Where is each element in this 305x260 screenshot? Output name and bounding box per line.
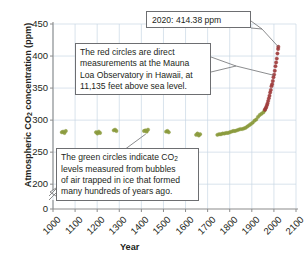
annotation-2020-value: 2020: 414.38 ppm — [146, 11, 251, 28]
plot-area — [0, 0, 305, 260]
annotation-green-subscript: 2 — [174, 155, 178, 162]
annotation-green-line3: of air trapped in ice that formed — [61, 175, 180, 185]
annotation-red-line1: The red circles are direct — [80, 47, 175, 57]
annotation-red-line4: 11,135 feet above sea level. — [80, 81, 187, 91]
annotation-green-line4: many hundreds of years ago. — [61, 186, 172, 196]
series-1 — [263, 45, 280, 111]
annotation-green-line1: The green circles indicate CO — [61, 152, 174, 162]
annotation-green-circles: The green circles indicate CO2 levels me… — [56, 148, 199, 201]
annotation-red-line2: measurements at the Mauna — [80, 58, 189, 68]
co2-concentration-chart: Atmospheric CO2 concentration (ppm) Year… — [0, 0, 305, 260]
annotation-2020-line1: 2020: 414.38 ppm — [152, 15, 221, 25]
annotation-red-circles: The red circles are direct measurements … — [75, 43, 211, 95]
annotation-green-line2: levels measured from bubbles — [61, 164, 176, 174]
annotation-red-line3: Loa Observatory in Hawaii, at — [80, 70, 193, 80]
